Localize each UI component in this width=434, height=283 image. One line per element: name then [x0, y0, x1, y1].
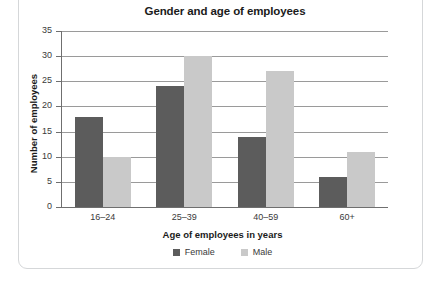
plot-area	[62, 31, 388, 207]
x-tick-label-40–59: 40–59	[221, 212, 311, 222]
legend-label: Male	[253, 247, 273, 257]
y-tick-label: 10	[22, 152, 52, 161]
y-tick-label: 30	[22, 51, 52, 60]
chart-title: Gender and age of employees	[40, 5, 410, 17]
legend-item-female[interactable]: Female	[173, 247, 215, 257]
legend-label: Female	[185, 247, 215, 257]
y-tick-label: 35	[22, 26, 52, 35]
bar-female-60+	[319, 177, 347, 207]
bar-female-25–39	[156, 86, 184, 207]
gridline-20	[62, 106, 388, 107]
y-tick-mark-30	[56, 56, 61, 57]
y-tick-label: 5	[22, 177, 52, 186]
gridline-25	[62, 81, 388, 82]
y-tick-mark-15	[56, 132, 61, 133]
x-tick-label-60+: 60+	[302, 212, 392, 222]
gridline-30	[62, 56, 388, 57]
y-tick-label: 20	[22, 101, 52, 110]
bar-male-40–59	[266, 71, 294, 207]
x-tick-label-16–24: 16–24	[58, 212, 148, 222]
bar-female-16–24	[75, 117, 103, 208]
gridline-0	[62, 207, 388, 208]
y-tick-mark-0	[56, 207, 61, 208]
bar-chart: Gender and age of employees Number of em…	[0, 0, 434, 283]
legend-item-male[interactable]: Male	[241, 247, 273, 257]
y-tick-label: 0	[22, 202, 52, 211]
y-tick-mark-10	[56, 157, 61, 158]
y-tick-mark-25	[56, 81, 61, 82]
legend-swatch-female-icon	[173, 249, 180, 256]
gridline-35	[62, 31, 388, 32]
bar-male-16–24	[103, 157, 131, 207]
gridline-15	[62, 132, 388, 133]
y-tick-label: 25	[22, 76, 52, 85]
x-tick-label-25–39: 25–39	[139, 212, 229, 222]
bar-male-60+	[347, 152, 375, 207]
y-tick-label: 15	[22, 127, 52, 136]
y-tick-mark-20	[56, 106, 61, 107]
y-tick-mark-35	[56, 31, 61, 32]
bar-male-25–39	[184, 56, 212, 207]
bar-female-40–59	[238, 137, 266, 207]
x-axis-title: Age of employees in years	[55, 229, 390, 240]
chart-legend: FemaleMale	[55, 247, 390, 257]
legend-swatch-male-icon	[241, 249, 248, 256]
y-tick-mark-5	[56, 182, 61, 183]
